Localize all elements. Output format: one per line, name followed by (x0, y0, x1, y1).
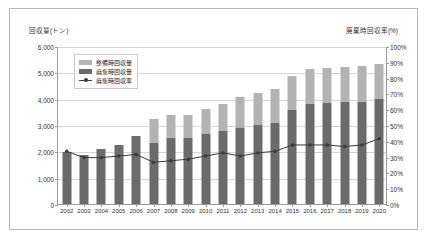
y-tick-mark-right (386, 205, 389, 206)
y-tick-label-left: 4,000 (38, 96, 54, 103)
x-tick-label: 2013 (251, 208, 264, 214)
y-tick-label-right: 70% (390, 91, 403, 98)
legend-item[interactable]: 廃棄時回収量 (79, 67, 132, 76)
legend-swatch-icon (79, 60, 92, 65)
y-tick-label-left: 0 (50, 202, 54, 209)
rate-line-marker[interactable] (82, 156, 85, 159)
y-tick-label-right: 40% (390, 138, 403, 145)
y-tick-mark-left (55, 205, 58, 206)
x-tick-label: 2010 (199, 208, 212, 214)
rate-line-marker[interactable] (169, 159, 172, 162)
y-tick-label-right: 80% (390, 75, 403, 82)
x-tick-label: 2008 (164, 208, 177, 214)
chart-legend: 整備時回収量廃棄時回収量廃棄時回収率 (74, 54, 138, 89)
legend-label: 廃棄時回収率 (96, 76, 132, 85)
rate-line-path (67, 139, 380, 163)
y-tick-label-left: 5,000 (38, 70, 54, 77)
legend-line-icon (79, 77, 92, 84)
x-tick-label: 2019 (355, 208, 368, 214)
y-tick-label-left: 2,000 (38, 149, 54, 156)
x-tick-label: 2014 (268, 208, 281, 214)
legend-label: 整備時回収量 (96, 58, 132, 67)
rate-line-marker[interactable] (100, 156, 103, 159)
rate-line-marker[interactable] (343, 145, 346, 148)
x-tick-label: 2011 (217, 208, 230, 214)
y-tick-label-right: 10% (390, 186, 403, 193)
rate-line-marker[interactable] (378, 137, 381, 140)
y-tick-label-right: 100% (390, 44, 407, 51)
x-tick-label: 2017 (321, 208, 334, 214)
x-tick-label: 2002 (60, 208, 73, 214)
rate-line-marker[interactable] (134, 153, 137, 156)
rate-line-marker[interactable] (326, 143, 329, 146)
rate-line-marker[interactable] (273, 150, 276, 153)
legend-item[interactable]: 整備時回収量 (79, 58, 132, 67)
x-tick-label: 2016 (303, 208, 316, 214)
legend-label: 廃棄時回収量 (96, 67, 132, 76)
x-tick-label: 2020 (373, 208, 386, 214)
y-axis-label-right: 廃棄時回収率(%) (346, 25, 398, 35)
y-tick-label-right: 0% (390, 202, 399, 209)
rate-line-marker[interactable] (308, 143, 311, 146)
rate-line-marker[interactable] (187, 157, 190, 160)
x-tick-label: 2004 (95, 208, 108, 214)
y-tick-label-right: 30% (390, 154, 403, 161)
y-tick-label-left: 1,000 (38, 175, 54, 182)
x-tick-label: 2012 (234, 208, 247, 214)
x-tick-label: 2018 (338, 208, 351, 214)
rate-line-marker[interactable] (360, 143, 363, 146)
y-axis-label-left: 回収量(トン) (29, 25, 68, 35)
rate-line-marker[interactable] (221, 151, 224, 154)
x-tick-label: 2003 (77, 208, 90, 214)
x-tick-label: 2007 (147, 208, 160, 214)
rate-line-marker[interactable] (256, 151, 259, 154)
rate-line-marker[interactable] (204, 154, 207, 157)
legend-swatch-icon (79, 69, 92, 74)
rate-line-marker[interactable] (291, 143, 294, 146)
y-tick-label-left: 3,000 (38, 123, 54, 130)
y-tick-label-left: 6,000 (38, 44, 54, 51)
y-tick-label-right: 20% (390, 170, 403, 177)
rate-line-marker[interactable] (152, 161, 155, 164)
x-tick-label: 2009 (182, 208, 195, 214)
rate-line-marker[interactable] (239, 154, 242, 157)
x-tick-label: 2005 (112, 208, 125, 214)
rate-line-marker[interactable] (117, 154, 120, 157)
y-tick-label-right: 90% (390, 59, 403, 66)
y-tick-label-right: 60% (390, 107, 403, 114)
chart-frame: 回収量(トン) 廃棄時回収率(%) 01,0002,0003,0004,0005… (9, 8, 418, 230)
y-tick-label-right: 50% (390, 123, 403, 130)
legend-item[interactable]: 廃棄時回収率 (79, 76, 132, 85)
x-tick-label: 2006 (129, 208, 142, 214)
rate-line-marker[interactable] (65, 150, 68, 153)
x-tick-label: 2015 (286, 208, 299, 214)
